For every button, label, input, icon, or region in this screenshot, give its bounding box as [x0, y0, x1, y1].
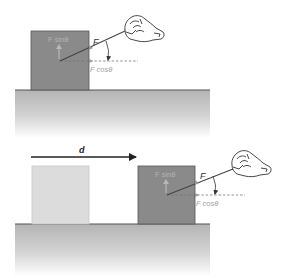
- ground: [15, 90, 210, 138]
- force-label: F: [200, 171, 206, 181]
- work-diagram: F sinθ F F cosθ d: [0, 0, 289, 278]
- bottom-panel: d F sinθ F F cosθ: [15, 145, 271, 276]
- angle-arc: [213, 176, 216, 194]
- ground: [15, 224, 210, 276]
- initial-position-box: [32, 166, 89, 224]
- horizontal-component-label: F cosθ: [90, 65, 112, 74]
- displacement-label: d: [79, 145, 85, 155]
- horizontal-arrowhead-icon: [195, 193, 199, 197]
- top-panel: F sinθ F F cosθ: [15, 16, 210, 138]
- vertical-component-label: F sinθ: [48, 35, 68, 44]
- vertical-component-label: F sinθ: [155, 170, 175, 179]
- horizontal-arrowhead-icon: [89, 59, 93, 63]
- angle-arc: [106, 41, 109, 60]
- horizontal-component-label: F cosθ: [196, 199, 218, 208]
- hand-icon: [125, 16, 164, 42]
- hand-icon: [232, 151, 271, 177]
- force-label: F: [93, 37, 99, 47]
